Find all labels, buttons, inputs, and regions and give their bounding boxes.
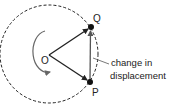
diagram-canvas	[0, 0, 172, 108]
vector-oq	[49, 29, 88, 55]
point-q	[88, 24, 94, 30]
label-o: O	[41, 55, 49, 66]
circular-path	[0, 5, 98, 103]
annotation-leader-line	[93, 58, 109, 64]
rotation-arrow-icon	[33, 31, 50, 72]
annotation-line-2: displacement	[110, 70, 166, 82]
label-p: P	[92, 87, 99, 98]
label-q: Q	[93, 13, 101, 24]
vector-op	[49, 55, 87, 80]
annotation-line-1: change in	[111, 57, 152, 69]
vector-pq-change	[90, 31, 91, 80]
point-p	[87, 79, 93, 85]
